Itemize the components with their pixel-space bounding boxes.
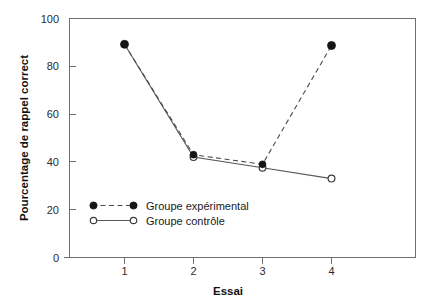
x-axis-title: Essai: [213, 285, 243, 297]
x-tick-label-4: 4: [328, 265, 334, 277]
axes-box: [70, 19, 416, 258]
y-tick-label-0: 0: [53, 252, 59, 264]
experimental-line: [125, 44, 332, 164]
legend-marker-filled-left: [90, 202, 97, 209]
experimental-point-4: [328, 42, 336, 50]
experimental-point-3: [259, 161, 266, 168]
x-tick-label-2: 2: [190, 265, 196, 277]
y-tick-label-60: 60: [47, 108, 59, 120]
legend-entry-controle: Groupe contrôle: [90, 215, 225, 227]
y-axis-title: Pourcentage de rappel correct: [18, 55, 30, 221]
legend-entry-experimental: Groupe expérimental: [90, 200, 249, 212]
series-groupe-controle: [125, 44, 335, 182]
y-tick-label-80: 80: [47, 60, 59, 72]
x-tick-label-1: 1: [121, 265, 127, 277]
control-point-4: [328, 175, 335, 182]
legend: Groupe expérimental Groupe contrôle: [90, 200, 249, 227]
legend-marker-open-right: [130, 217, 136, 223]
y-tick-label-20: 20: [47, 204, 59, 216]
y-tick-label-100: 100: [41, 13, 59, 25]
legend-label-controle: Groupe contrôle: [146, 215, 225, 227]
experimental-point-2: [190, 151, 197, 158]
legend-label-experimental: Groupe expérimental: [146, 200, 249, 212]
chart-figure: 100 80 60 40 20 0 Pourcentage de rappel …: [0, 0, 421, 308]
line-chart: 100 80 60 40 20 0 Pourcentage de rappel …: [0, 0, 421, 308]
x-axis-ticks: [125, 258, 332, 264]
legend-marker-open-left: [90, 217, 96, 223]
x-tick-label-3: 3: [259, 265, 265, 277]
plot-frame: [70, 19, 416, 258]
experimental-point-1: [121, 40, 129, 48]
control-line: [125, 44, 332, 178]
series-groupe-experimental: [121, 40, 336, 167]
y-axis-tick-labels: 100 80 60 40 20 0: [41, 13, 59, 264]
x-axis-tick-labels: 1 2 3 4: [121, 265, 334, 277]
legend-marker-filled-right: [130, 202, 137, 209]
y-tick-label-40: 40: [47, 156, 59, 168]
